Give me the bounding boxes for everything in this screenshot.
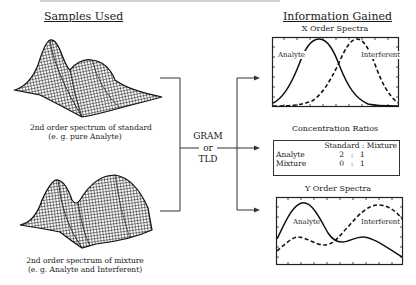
concentration-ratios-table: Standard : Mixture Analyte 2 : 1 Mixture… <box>273 140 400 176</box>
method-or: or <box>183 143 233 155</box>
ratio-separator: : <box>346 159 358 168</box>
ratio-separator: : <box>346 150 358 159</box>
ratio-header-row: Standard : Mixture <box>274 141 399 150</box>
y-interferent-label: Interferent <box>360 218 401 226</box>
method-label: GRAM or TLD <box>183 131 233 166</box>
information-gained-heading: Information Gained <box>283 10 392 23</box>
x-interferent-label: Interferent <box>360 51 400 59</box>
method-gram: GRAM <box>183 131 233 143</box>
ratio-label: Mixture <box>274 159 322 168</box>
x-analyte-label: Analyte <box>277 51 306 59</box>
ratio-row-mixture: Mixture 0 : 1 <box>274 159 399 168</box>
ratio-mixture-value: 1 <box>358 150 399 159</box>
y-order-spectra-plot <box>276 197 403 265</box>
y-analyte-label: Analyte <box>293 218 320 226</box>
ratio-mixture-value: 1 <box>358 159 399 168</box>
concentration-ratios-title: Concentration Ratios <box>272 124 398 133</box>
y-spectra-title: Y Order Spectra <box>274 184 402 193</box>
ratio-row-analyte: Analyte 2 : 1 <box>274 150 399 159</box>
ratio-standard-value: 2 <box>322 150 346 159</box>
ratio-header: Standard : Mixture <box>322 141 399 150</box>
ratio-standard-value: 0 <box>322 159 346 168</box>
x-order-spectra-plot <box>272 37 399 107</box>
method-tld: TLD <box>183 154 233 166</box>
x-spectra-title: X Order Spectra <box>272 24 398 33</box>
ratio-label: Analyte <box>274 150 322 159</box>
